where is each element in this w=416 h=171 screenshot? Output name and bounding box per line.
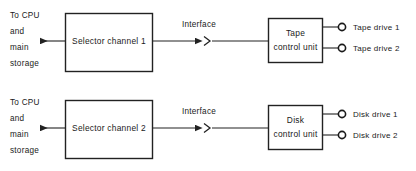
tape-row-host-label-line4: storage bbox=[10, 59, 39, 68]
tape-row-host-label-line2: and bbox=[10, 27, 25, 36]
disk-row-host-label-line4: storage bbox=[10, 146, 39, 155]
disk-interface-chevron-icon bbox=[204, 124, 210, 133]
tape-interface-chevron-icon bbox=[204, 37, 210, 46]
disk-control-unit-label-line1: Disk bbox=[287, 115, 305, 125]
selector-channel-2-label: Selector channel 2 bbox=[72, 123, 146, 133]
disk-drive-1-node[interactable] bbox=[338, 110, 345, 117]
disk-row-host-label-line2: and bbox=[10, 114, 25, 123]
tape-control-unit-label-line2: control unit bbox=[274, 42, 318, 52]
tape-drive-2-label: Tape drive 2 bbox=[353, 44, 400, 53]
tape-drive-1-label: Tape drive 1 bbox=[353, 23, 400, 32]
tape-control-unit-label-line1: Tape bbox=[286, 28, 305, 38]
tape-drive-1-node[interactable] bbox=[338, 23, 345, 30]
tape-row-interface-label: Interface bbox=[182, 20, 216, 29]
disk-row-host-label-line1: To CPU bbox=[10, 98, 40, 107]
tape-row-host-label-line1: To CPU bbox=[10, 11, 40, 20]
disk-control-unit-label-line2: control unit bbox=[274, 129, 318, 139]
tape-control-unit-box[interactable] bbox=[269, 19, 323, 63]
disk-row-host-label-line3: main bbox=[10, 130, 29, 139]
selector-channel-1-label: Selector channel 1 bbox=[72, 36, 146, 46]
tape-row-interface-line bbox=[152, 37, 268, 46]
tape-drive-2-node[interactable] bbox=[338, 44, 345, 51]
tape-row-host-label-line3: main bbox=[10, 43, 29, 52]
disk-row-interface-label: Interface bbox=[182, 107, 216, 116]
selector-channel-diagram: To CPU and main storage Selector channel… bbox=[0, 0, 416, 171]
disk-drive-1-label: Disk drive 1 bbox=[353, 110, 398, 119]
diagram-canvas: To CPU and main storage Selector channel… bbox=[0, 0, 416, 171]
disk-control-unit-box[interactable] bbox=[269, 106, 323, 150]
disk-drive-2-label: Disk drive 2 bbox=[353, 131, 398, 140]
disk-row-interface-line bbox=[152, 124, 268, 133]
disk-drive-2-node[interactable] bbox=[338, 131, 345, 138]
